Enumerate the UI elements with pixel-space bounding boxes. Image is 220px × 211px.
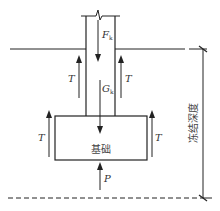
arrow-up-icon bbox=[97, 162, 103, 170]
frost-depth-label: 冻结深度 bbox=[187, 103, 199, 143]
frost-heave-diagram: 基础 Fk Gk T T T T P bbox=[0, 0, 220, 211]
arrow-down-icon bbox=[95, 54, 101, 62]
break-line-icon bbox=[81, 10, 120, 20]
frost-depth-dimension: 冻结深度 bbox=[187, 46, 207, 201]
tangential-force-label: T bbox=[38, 132, 46, 143]
tangential-force-label: T bbox=[155, 132, 163, 143]
tangential-force-label: T bbox=[68, 73, 76, 84]
dead-load-arrow: Fk bbox=[95, 20, 113, 62]
tangential-force-column-left: T bbox=[68, 55, 82, 98]
base-reaction-arrow: P bbox=[97, 162, 111, 190]
self-weight-arrow: Gk bbox=[97, 80, 114, 134]
self-weight-label: Gk bbox=[102, 83, 114, 95]
arrow-up-icon bbox=[118, 55, 124, 63]
arrow-down-icon bbox=[97, 126, 103, 134]
tangential-force-foundation-right: T bbox=[149, 110, 163, 157]
base-reaction-label: P bbox=[103, 173, 111, 184]
arrow-up-icon bbox=[149, 110, 155, 118]
arrow-up-icon bbox=[76, 55, 82, 63]
dead-load-label: Fk bbox=[101, 29, 113, 41]
arrow-up-icon bbox=[46, 110, 52, 118]
tangential-force-label: T bbox=[125, 73, 133, 84]
foundation-label: 基础 bbox=[91, 143, 111, 155]
tangential-force-foundation-left: T bbox=[38, 110, 52, 157]
tangential-force-column-right: T bbox=[118, 55, 133, 98]
